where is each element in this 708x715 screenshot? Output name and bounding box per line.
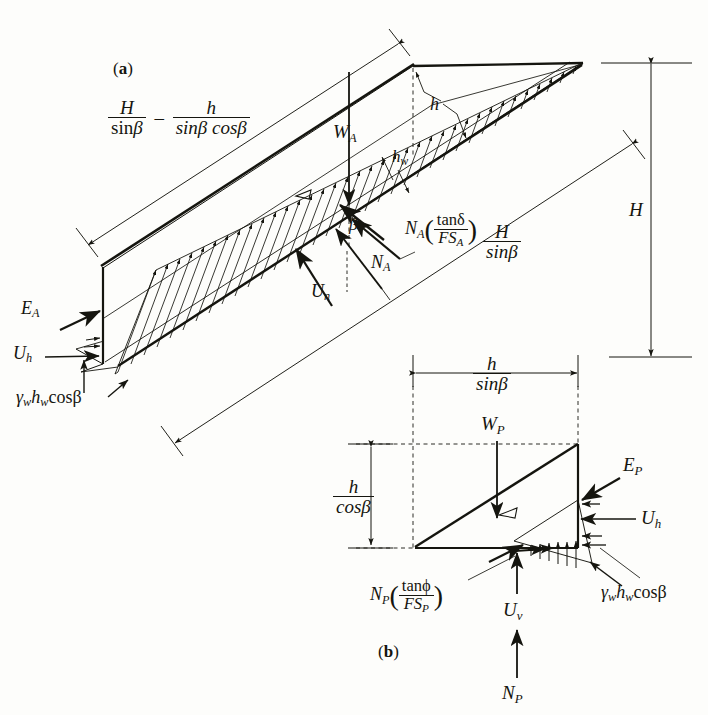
fraction-tanphi-over-FSP: tanϕFSP bbox=[399, 578, 434, 614]
uplift-pressure-distribution-b bbox=[531, 541, 576, 568]
minus-sign: – bbox=[150, 108, 168, 127]
label-NP: NP bbox=[502, 683, 523, 706]
label-Uh-b: Uh bbox=[641, 508, 661, 531]
label-h-over-sinbeta-b: h sinβ bbox=[473, 354, 511, 393]
label-EA: EA bbox=[21, 299, 39, 320]
fraction-h-over-cosbeta-b: h cosβ bbox=[333, 477, 374, 516]
panel-a-geometry bbox=[45, 29, 692, 456]
force-arrow-Uh-a bbox=[45, 356, 99, 357]
fraction-H-over-sinbeta-slope: H sinβ bbox=[483, 222, 521, 261]
label-gammaw-hw-cosbeta-a: γwhwcosβ bbox=[16, 388, 82, 409]
label-EP: EP bbox=[623, 455, 643, 478]
label-h: h bbox=[430, 95, 439, 113]
pointer-gamma-w-b bbox=[590, 548, 640, 586]
panel-a-tag: (a) bbox=[113, 60, 133, 77]
water-table-marker-b bbox=[499, 508, 517, 518]
pointer-gamma-w-a bbox=[84, 360, 128, 397]
panel-b-geometry bbox=[348, 355, 640, 678]
label-NA-shear: NA(tanδFSA) bbox=[405, 212, 477, 248]
force-arrow-NA-shear-2 bbox=[340, 205, 384, 240]
label-beta-angle: β bbox=[349, 216, 357, 233]
label-NP-shear: NP(tanϕFSP) bbox=[370, 578, 443, 614]
dimension-h bbox=[416, 72, 466, 138]
label-Uh-a: Uh bbox=[13, 344, 32, 365]
figure-canvas: (a) H sinβ – h sinβ cosβ WA h hw β NA(ta… bbox=[0, 0, 708, 715]
fraction-h-over-sinbetacosbeta: h sinβ cosβ bbox=[173, 98, 250, 137]
label-WP: WP bbox=[481, 414, 505, 437]
label-H-over-sinbeta-a: H sinβ bbox=[483, 222, 521, 261]
fraction-H-over-sinbeta: H sinβ bbox=[108, 98, 146, 137]
label-NA: NA bbox=[371, 253, 391, 274]
label-upper-dimension: H sinβ – h sinβ cosβ bbox=[108, 98, 250, 137]
force-arrow-Uh-b bbox=[581, 504, 636, 545]
label-gammaw-hw-cosbeta-b: γwhwcosβ bbox=[601, 583, 667, 604]
fraction-tandelta-over-FSA: tanδFSA bbox=[434, 212, 468, 248]
force-arrow-EA bbox=[60, 311, 100, 330]
label-Un: Un bbox=[311, 282, 330, 303]
fraction-h-over-sinbeta-b: h sinβ bbox=[473, 354, 511, 393]
dimension-H-vertical bbox=[601, 63, 692, 357]
engineering-diagram-svg bbox=[0, 0, 708, 715]
label-hw: hw bbox=[392, 148, 408, 168]
label-Uv: Uv bbox=[503, 600, 522, 623]
panel-b-tag: (b) bbox=[378, 643, 399, 660]
label-WA: WA bbox=[333, 122, 357, 145]
force-arrow-EP bbox=[582, 478, 620, 500]
label-h-over-cosbeta-b: h cosβ bbox=[333, 477, 374, 516]
label-H-dimension: H bbox=[629, 200, 643, 219]
